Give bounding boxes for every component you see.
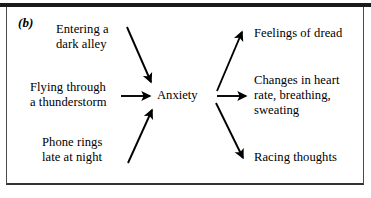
arrow-stimulus-2-to-center	[128, 110, 152, 163]
figure-left-border	[6, 7, 7, 184]
anxiety-diagram-figure: (b) Entering a dark alley Flying through…	[0, 0, 371, 198]
center-node-anxiety: Anxiety	[157, 88, 198, 103]
response-racing-thoughts: Racing thoughts	[254, 150, 337, 165]
arrow-center-to-response-0	[217, 32, 242, 91]
figure-right-border	[363, 7, 364, 184]
figure-bottom-border	[6, 183, 364, 185]
stimulus-entering-dark-alley: Entering a dark alley	[56, 22, 109, 52]
figure-top-border	[0, 3, 371, 7]
response-feelings-of-dread: Feelings of dread	[254, 26, 342, 41]
response-physiological-changes: Changes in heart rate, breathing, sweati…	[254, 73, 339, 118]
panel-label: (b)	[18, 15, 33, 31]
arrow-center-to-response-2	[216, 103, 243, 158]
stimulus-phone-rings-late: Phone rings late at night	[42, 135, 102, 165]
stimulus-flying-thunderstorm: Flying through a thunderstorm	[30, 80, 107, 110]
arrow-stimulus-0-to-center	[127, 27, 151, 82]
